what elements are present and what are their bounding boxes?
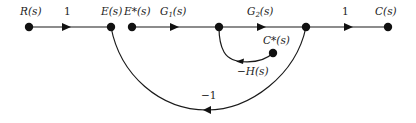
arrowhead-icon xyxy=(236,59,244,65)
label-r: R(s) xyxy=(19,5,42,17)
arrowhead-icon xyxy=(203,106,211,114)
gain-r-e: 1 xyxy=(64,5,71,17)
node-n1 xyxy=(215,23,223,31)
label-e: E(s) xyxy=(100,5,122,17)
node-n2 xyxy=(302,23,310,31)
arrowhead-icon xyxy=(257,23,266,31)
gain-n2-c: 1 xyxy=(342,5,349,17)
gain-neg-h: −H(s) xyxy=(237,65,269,77)
label-c: C(s) xyxy=(375,5,397,17)
arrowhead-icon xyxy=(62,23,71,31)
gain-g2-main: G xyxy=(247,5,255,17)
node-r xyxy=(25,23,33,31)
gain-neg-one: −1 xyxy=(201,89,216,101)
node-estar xyxy=(128,23,136,31)
gain-g2-tail: (s) xyxy=(260,5,274,17)
arrowhead-icon xyxy=(170,23,179,31)
gain-g1-tail: (s) xyxy=(173,5,187,17)
gain-g2: G2(s) xyxy=(247,5,273,19)
signal-flow-graph: R(s) E(s) E*(s) C(s) C*(s) 1 G1(s) G2(s)… xyxy=(0,0,416,123)
gain-g1-main: G xyxy=(160,5,168,17)
label-cstar: C*(s) xyxy=(263,34,290,46)
node-e xyxy=(107,23,115,31)
label-estar: E*(s) xyxy=(123,5,151,17)
node-c xyxy=(384,23,392,31)
gain-g1: G1(s) xyxy=(160,5,186,19)
arrowhead-icon xyxy=(344,23,353,31)
node-cstar xyxy=(269,49,277,57)
